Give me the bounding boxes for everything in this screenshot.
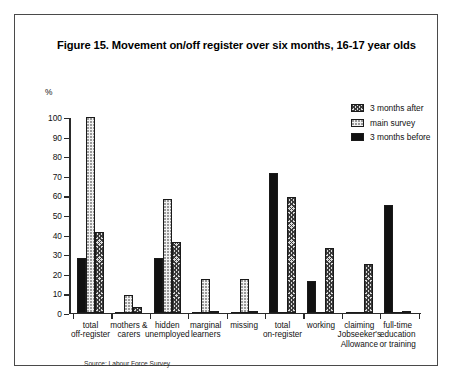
y-axis-tick (64, 138, 69, 139)
y-axis-tick (64, 294, 69, 295)
y-axis-tick (64, 255, 69, 256)
x-axis-category-label: full-time education or training (371, 321, 425, 349)
bar-group (231, 279, 258, 312)
bar (77, 258, 86, 313)
bar (95, 232, 104, 312)
y-axis-tick (64, 216, 69, 217)
y-axis-tick-label: 10 (53, 289, 62, 299)
bar (231, 312, 240, 313)
x-axis-tick (265, 314, 266, 319)
bar (249, 311, 258, 313)
bar-group (154, 199, 181, 313)
x-axis-tick (111, 314, 112, 319)
bar-group (77, 117, 104, 313)
y-axis-tick-label: 0 (57, 309, 62, 319)
bar (325, 248, 334, 313)
bar-group (115, 295, 142, 313)
bar-group (307, 248, 334, 313)
source-note: Source: Labour Force Survey (84, 360, 170, 367)
bar (86, 117, 95, 313)
figure-frame: Figure 15. Movement on/off register over… (14, 14, 438, 366)
x-axis-tick (188, 314, 189, 319)
bar (307, 281, 316, 312)
y-axis-tick (64, 275, 69, 276)
chart-legend: 3 months aftermain survey3 months before (351, 103, 431, 147)
y-axis-tick-label: 30 (53, 250, 62, 260)
y-axis-tick-label: 60 (53, 191, 62, 201)
legend-swatch-before (351, 133, 364, 141)
legend-item: 3 months after (351, 103, 431, 113)
y-axis-tick-label: 20 (53, 270, 62, 280)
bar (269, 173, 278, 312)
bar (287, 197, 296, 313)
bar (384, 205, 393, 313)
y-axis-tick (64, 314, 69, 315)
bar (154, 258, 163, 313)
y-axis-line (69, 118, 71, 314)
x-axis-tick (342, 314, 343, 319)
x-axis-tick (227, 314, 228, 319)
bar (192, 312, 201, 313)
bar (210, 311, 219, 313)
bar (115, 312, 124, 313)
legend-swatch-main (351, 119, 364, 127)
bar-group (384, 205, 411, 313)
x-axis-line (69, 313, 421, 315)
x-axis-tick (73, 314, 74, 319)
bar-group (192, 279, 219, 312)
y-axis-tick (64, 196, 69, 197)
bar (402, 311, 411, 313)
bar (355, 312, 364, 313)
bar (172, 242, 181, 313)
y-axis-tick (64, 157, 69, 158)
legend-item: main survey (351, 118, 431, 128)
bar (240, 279, 249, 312)
y-axis-tick-label: 100 (48, 113, 62, 123)
y-axis-tick (64, 236, 69, 237)
bar-group (269, 173, 296, 312)
bar (163, 199, 172, 313)
bar (346, 312, 355, 313)
bar (393, 312, 402, 313)
bar-group (346, 264, 373, 313)
legend-label: main survey (370, 118, 415, 128)
bar (133, 307, 142, 313)
bar (201, 279, 210, 312)
bar (124, 295, 133, 313)
y-axis-tick-label: 90 (53, 133, 62, 143)
x-axis-tick (303, 314, 304, 319)
legend-item: 3 months before (351, 132, 431, 142)
y-axis-tick (64, 118, 69, 119)
bar (278, 312, 287, 313)
y-axis-tick-label: 50 (53, 211, 62, 221)
y-axis-tick (64, 177, 69, 178)
legend-swatch-after (351, 104, 364, 112)
y-axis-tick-label: 70 (53, 172, 62, 182)
y-axis-unit-label: % (45, 87, 52, 97)
bar (364, 264, 373, 313)
x-axis-tick (419, 314, 420, 319)
y-axis-tick-label: 80 (53, 152, 62, 162)
legend-label: 3 months before (370, 132, 431, 142)
bar (316, 312, 325, 313)
y-axis-tick-label: 40 (53, 231, 62, 241)
x-axis-tick (380, 314, 381, 319)
page-title: Figure 15. Movement on/off register over… (57, 39, 407, 51)
legend-label: 3 months after (370, 103, 424, 113)
x-axis-tick (150, 314, 151, 319)
